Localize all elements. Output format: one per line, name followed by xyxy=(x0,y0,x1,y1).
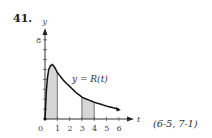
x-tick-label: 5 xyxy=(104,124,109,133)
x-tick-label: 4 xyxy=(92,124,97,133)
y-tick-label: 8 xyxy=(36,36,41,45)
x-axis-arrow-icon xyxy=(127,117,134,122)
x-tick-label: 3 xyxy=(80,124,85,133)
x-tick-label: 2 xyxy=(67,124,72,133)
y-axis-arrow-icon xyxy=(43,28,48,35)
x-tick-label: 0 xyxy=(38,124,43,133)
x-tick-label: 1 xyxy=(55,124,60,133)
y-axis-label: y xyxy=(42,17,48,26)
curve-end-arrow-icon xyxy=(116,107,121,112)
section-reference: (6-5, 7-1) xyxy=(153,118,197,129)
x-axis-label: t xyxy=(137,115,141,124)
x-tick-label: 6 xyxy=(117,124,122,133)
curve-label: y = R(t) xyxy=(71,74,108,84)
